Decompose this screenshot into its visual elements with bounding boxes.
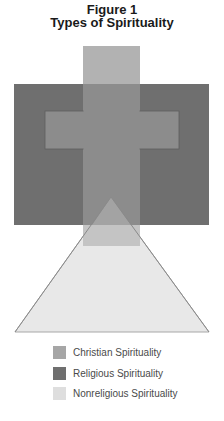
- legend-label-christian: Christian Spirituality: [73, 347, 161, 358]
- triangle-in-cross-bottom: [83, 225, 140, 246]
- legend-item-religious: Religious Spirituality: [53, 366, 163, 380]
- legend-item-christian: Christian Spirituality: [53, 345, 161, 359]
- cross-vertical-top: [83, 46, 140, 84]
- legend-label-nonreligious: Nonreligious Spirituality: [73, 388, 178, 399]
- legend-item-nonreligious: Nonreligious Spirituality: [53, 386, 178, 400]
- legend-label-religious: Religious Spirituality: [73, 368, 163, 379]
- legend-swatch-religious: [53, 367, 66, 380]
- legend-swatch-christian: [53, 346, 66, 359]
- legend-swatch-nonreligious: [53, 387, 66, 400]
- cross-center: [84, 110, 140, 150]
